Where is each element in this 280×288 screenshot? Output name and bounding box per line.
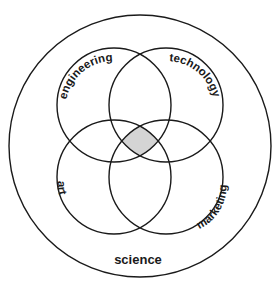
science-label: science [114,252,162,267]
marketing-label: marketing [194,184,229,231]
engineering-circle [57,48,171,162]
venn-diagram: engineering technology art marketing sci… [0,0,280,288]
art-circle [57,120,171,234]
center-intersection [0,0,280,288]
highlight-region [0,0,280,288]
technology-circle [109,48,223,162]
art-label: art [56,181,69,196]
art-label-text: art [56,181,69,196]
marketing-label-text: marketing [194,184,229,231]
